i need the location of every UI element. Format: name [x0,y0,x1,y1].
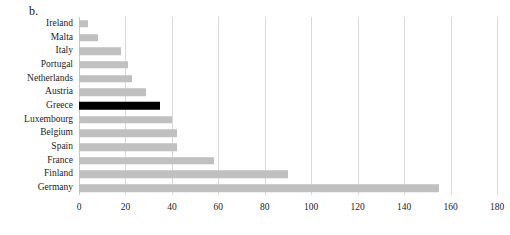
bar-france [79,157,214,165]
category-label-belgium: Belgium [40,128,73,138]
bar-row [79,154,497,168]
category-label-netherlands: Netherlands [27,74,73,84]
category-label-austria: Austria [45,87,73,97]
gridline-180 [497,17,498,195]
bar-row [79,140,497,154]
bar-greece [79,102,160,111]
bar-finland [79,171,288,179]
x-tick-label-60: 60 [214,202,224,212]
bar-italy [79,47,121,55]
bar-row [79,58,497,72]
category-label-spain: Spain [51,142,73,152]
bar-row [79,168,497,182]
bar-malta [79,34,98,42]
bar-row [79,99,497,113]
x-tick-label-120: 120 [351,202,365,212]
category-label-italy: Italy [56,46,73,56]
bar-row [79,31,497,45]
bar-row [79,127,497,141]
bar-austria [79,89,146,97]
bar-row [79,17,497,31]
category-label-france: France [47,156,73,166]
bar-ireland [79,20,88,28]
bar-row [79,113,497,127]
x-tick-label-100: 100 [304,202,318,212]
bar-netherlands [79,75,132,83]
bar-luxembourg [79,116,172,124]
bar-portugal [79,61,128,69]
x-tick-label-20: 20 [121,202,131,212]
category-label-ireland: Ireland [46,19,73,29]
value-axis: 020406080100120140160180 [79,196,497,226]
x-tick-label-180: 180 [490,202,504,212]
category-axis-labels: IrelandMaltaItalyPortugalNetherlandsAust… [0,17,75,195]
bar-spain [79,143,177,151]
category-label-malta: Malta [51,33,73,43]
x-tick-label-80: 80 [260,202,270,212]
x-tick-label-0: 0 [77,202,82,212]
x-tick-label-40: 40 [167,202,177,212]
bar-chart: b. IrelandMaltaItalyPortugalNetherlandsA… [0,0,510,235]
category-label-germany: Germany [38,183,73,193]
category-label-greece: Greece [46,101,73,111]
bar-belgium [79,130,177,138]
bar-row [79,72,497,86]
category-label-luxembourg: Luxembourg [24,115,73,125]
bar-row [79,181,497,195]
bar-row [79,85,497,99]
x-tick-label-140: 140 [397,202,411,212]
category-label-portugal: Portugal [41,60,73,70]
x-tick-label-160: 160 [443,202,457,212]
bars-group [79,17,497,195]
plot-area [79,17,497,195]
category-label-finland: Finland [44,169,73,179]
bar-germany [79,184,439,192]
bar-row [79,44,497,58]
